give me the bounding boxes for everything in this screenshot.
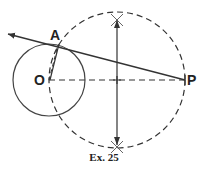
label-a: A [50, 27, 60, 43]
bisector-arrow-top [114, 20, 120, 28]
midpoint-mark [113, 76, 121, 84]
tangent-construction-diagram: A O P [0, 0, 208, 170]
figure-caption: Ex. 25 [0, 151, 208, 163]
label-p: P [187, 72, 196, 88]
label-o: O [34, 72, 45, 88]
dashed-radius-oa [49, 45, 58, 80]
bisector-arrow-bottom [114, 137, 120, 145]
